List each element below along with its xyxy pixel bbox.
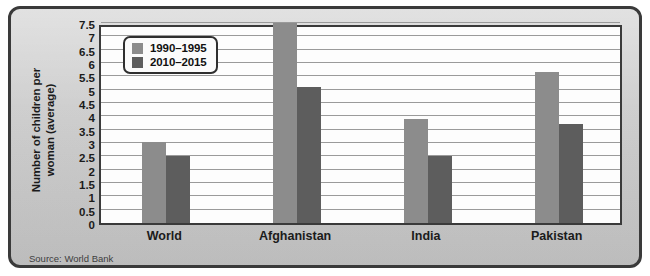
legend-swatch-icon-2010-2015 [132, 57, 143, 68]
y-tick-label: 6 [89, 60, 95, 71]
y-tick-label: 0.5 [79, 206, 95, 217]
y-tick-label: 5 [89, 86, 95, 97]
bar-world-2010-2015 [166, 156, 190, 223]
legend-label-2010-2015: 2010–2015 [150, 56, 207, 68]
source-note: Source: World Bank [29, 253, 113, 264]
legend: 1990–1995 2010–2015 [123, 36, 218, 74]
y-axis-title-line-2: woman (average) [43, 68, 57, 192]
y-tick-label: 7 [89, 33, 95, 44]
y-tick-label: 4 [89, 113, 95, 124]
fertility-bar-chart-figure: Number of children per woman (average) 7… [0, 0, 650, 276]
bar-india-2010-2015 [428, 156, 452, 223]
y-tick-label: 1 [89, 193, 95, 204]
plot-area: 1990–1995 2010–2015 [99, 25, 622, 225]
legend-item-1990-1995: 1990–1995 [132, 42, 207, 54]
legend-label-1990-1995: 1990–1995 [150, 42, 207, 54]
x-label-afghanistan: Afghanistan [259, 229, 331, 243]
y-tick-label: 5.5 [79, 73, 95, 84]
gridline [101, 22, 620, 23]
y-tick-label: 2 [89, 166, 95, 177]
y-tick-label: 7.5 [79, 20, 95, 31]
bar-afghanistan-2010-2015 [297, 87, 321, 223]
y-tick-label: 6.5 [79, 46, 95, 57]
cropped-title-sliver [148, 0, 208, 4]
bar-india-1990-1995 [404, 119, 428, 223]
x-axis-category-labels: WorldAfghanistanIndiaPakistan [99, 229, 622, 249]
y-axis-title-line-1: Number of children per [29, 68, 43, 192]
legend-swatch-icon-1990-1995 [132, 43, 143, 54]
y-tick-label: 4.5 [79, 100, 95, 111]
y-tick-label: 1.5 [79, 180, 95, 191]
chart-card: Number of children per woman (average) 7… [8, 6, 642, 268]
y-tick-label: 0 [89, 220, 95, 231]
y-axis-tick-labels: 7.576.565.554.543.532.521.510.50 [63, 21, 97, 233]
legend-item-2010-2015: 2010–2015 [132, 56, 207, 68]
bar-afghanistan-1990-1995 [273, 23, 297, 223]
x-label-world: World [147, 229, 182, 243]
y-tick-label: 2.5 [79, 153, 95, 164]
bar-pakistan-2010-2015 [559, 124, 583, 223]
x-label-india: India [411, 229, 440, 243]
x-label-pakistan: Pakistan [531, 229, 582, 243]
y-tick-label: 3 [89, 140, 95, 151]
bar-world-1990-1995 [142, 142, 166, 223]
bar-pakistan-1990-1995 [535, 72, 559, 223]
y-axis-title: Number of children per woman (average) [23, 23, 63, 237]
y-tick-label: 3.5 [79, 126, 95, 137]
